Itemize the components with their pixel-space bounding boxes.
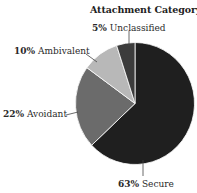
label-secure-name: Secure [142, 179, 174, 189]
label-ambivalent-pct: 10% [14, 46, 35, 56]
label-ambivalent-name: Ambivalent [38, 46, 90, 56]
label-avoidant: 22% Avoidant [3, 109, 67, 119]
label-unclassified-name: Unclassified [110, 23, 166, 33]
label-avoidant-pct: 22% [3, 109, 24, 119]
label-avoidant-name: Avoidant [27, 109, 67, 119]
label-ambivalent: 10% Ambivalent [14, 46, 90, 56]
label-unclassified-pct: 5% [92, 23, 107, 33]
pie-slices [76, 43, 195, 165]
label-unclassified: 5% Unclassified [92, 23, 166, 33]
label-secure: 63% Secure [118, 179, 174, 189]
label-secure-pct: 63% [118, 179, 139, 189]
